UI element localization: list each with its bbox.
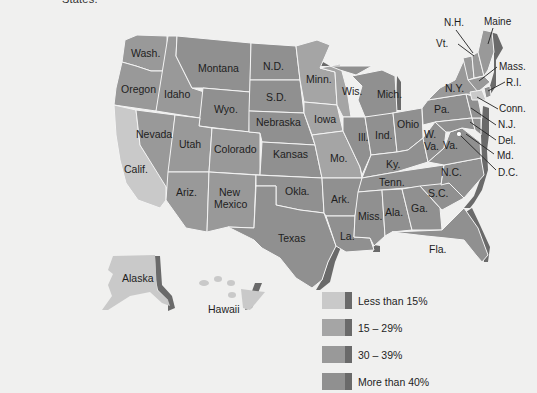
label-colorado: Colorado xyxy=(214,143,257,155)
label-ohio: Ohio xyxy=(397,118,419,130)
label-nd: N.D. xyxy=(263,60,284,72)
label-dc: D.C. xyxy=(498,167,518,178)
legend-label: Less than 15% xyxy=(358,295,427,307)
legend-swatch-30-39 xyxy=(322,346,352,363)
label-calif: Calif. xyxy=(124,163,148,175)
label-texas: Texas xyxy=(278,232,305,244)
label-vt: Vt. xyxy=(436,38,448,49)
label-kansas: Kansas xyxy=(273,148,308,160)
state-ariz xyxy=(166,172,209,232)
legend: Less than 15% 15 – 29% 30 – 39% More tha… xyxy=(322,290,429,393)
legend-label: More than 40% xyxy=(358,376,429,388)
label-nh: N.H. xyxy=(444,17,464,28)
label-idaho: Idaho xyxy=(164,88,190,100)
label-conn: Conn. xyxy=(499,103,526,114)
figure-page: States. xyxy=(0,0,537,393)
legend-swatch-gt40 xyxy=(322,373,352,390)
state-hawaii xyxy=(241,289,265,310)
legend-item-gt40: More than 40% xyxy=(322,371,429,392)
label-mass: Mass. xyxy=(499,61,526,72)
label-minn: Minn. xyxy=(306,73,332,85)
label-va: Va. xyxy=(443,139,458,151)
legend-item-15-29: 15 – 29% xyxy=(322,317,429,338)
label-ala: Ala. xyxy=(385,206,403,218)
label-pa: Pa. xyxy=(434,103,450,115)
legend-swatch-15-29 xyxy=(322,319,352,336)
label-mich: Mich. xyxy=(377,88,402,100)
label-new-mexico-2: Mexico xyxy=(214,198,247,210)
label-nevada: Nevada xyxy=(136,128,172,140)
legend-label: 15 – 29% xyxy=(358,322,402,334)
label-mo: Mo. xyxy=(330,152,348,164)
label-ariz: Ariz. xyxy=(176,186,197,198)
label-ga: Ga. xyxy=(411,202,428,214)
hawaii-island-2 xyxy=(214,276,222,282)
label-fla: Fla. xyxy=(429,243,447,255)
label-utah: Utah xyxy=(179,138,201,150)
label-wva-1: W. xyxy=(424,128,436,140)
legend-item-lt15: Less than 15% xyxy=(322,290,429,311)
label-ri: R.I. xyxy=(506,77,522,88)
legend-item-30-39: 30 – 39% xyxy=(322,344,429,365)
label-tenn: Tenn. xyxy=(379,176,405,188)
legend-swatch-lt15 xyxy=(322,292,352,309)
label-md: Md. xyxy=(497,150,514,161)
label-iowa: Iowa xyxy=(314,113,336,125)
us-map: Wash. Oregon Calif. Idaho Nevada Montana… xyxy=(0,0,537,393)
label-la: La. xyxy=(340,230,355,242)
label-sc: S.C. xyxy=(428,187,448,199)
label-wash: Wash. xyxy=(131,47,160,59)
label-ark: Ark. xyxy=(331,193,350,205)
hawaii-island-3 xyxy=(227,280,235,286)
label-ind: Ind. xyxy=(375,129,393,141)
label-alaska: Alaska xyxy=(122,272,154,284)
label-hawaii: Hawaii xyxy=(208,303,240,315)
hawaii-island-4 xyxy=(228,292,236,298)
label-montana: Montana xyxy=(198,62,239,74)
dc-marker xyxy=(456,131,461,136)
label-sd: S.D. xyxy=(266,91,286,103)
label-oregon: Oregon xyxy=(121,83,156,95)
label-ny: N.Y. xyxy=(445,82,464,94)
label-new-mexico-1: New xyxy=(219,186,240,198)
label-wis: Wis. xyxy=(342,85,362,97)
label-nj: N.J. xyxy=(498,119,516,130)
label-ky: Ky. xyxy=(386,158,400,170)
label-del: Del. xyxy=(498,135,516,146)
label-nebraska: Nebraska xyxy=(256,116,301,128)
state-conn xyxy=(470,90,486,100)
state-ri xyxy=(484,86,491,98)
label-wyo: Wyo. xyxy=(214,103,238,115)
label-ill: Ill. xyxy=(358,131,369,143)
label-wva-2: Va. xyxy=(424,140,439,152)
legend-label: 30 – 39% xyxy=(358,349,402,361)
label-maine: Maine xyxy=(484,16,512,27)
label-okla: Okla. xyxy=(285,185,310,197)
label-nc: N.C. xyxy=(441,166,462,178)
label-miss: Miss. xyxy=(358,210,383,222)
hawaii-island-1 xyxy=(199,280,209,286)
